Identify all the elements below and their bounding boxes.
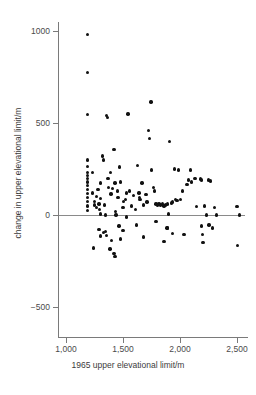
y-tick-label-wrap: 1000 bbox=[14, 27, 50, 36]
data-point bbox=[209, 179, 212, 182]
data-point bbox=[177, 168, 180, 171]
y-axis-title: change in upper elevational limit/m bbox=[13, 93, 23, 253]
x-axis-title: 1965 upper elevational limit/m bbox=[0, 360, 256, 370]
data-point bbox=[189, 168, 192, 171]
data-point bbox=[103, 203, 106, 206]
data-point bbox=[113, 255, 116, 258]
data-point bbox=[137, 191, 140, 194]
data-point bbox=[179, 198, 182, 201]
x-tick-label: 1,000 bbox=[46, 345, 86, 354]
data-point bbox=[118, 165, 121, 168]
data-point bbox=[105, 234, 108, 237]
data-point bbox=[98, 208, 101, 211]
data-point bbox=[86, 209, 89, 212]
data-point bbox=[128, 189, 131, 192]
data-point bbox=[102, 158, 105, 161]
y-axis-line bbox=[58, 22, 59, 338]
data-point bbox=[211, 226, 214, 229]
data-point bbox=[108, 247, 111, 250]
data-point bbox=[134, 208, 137, 211]
data-point bbox=[106, 116, 109, 119]
data-point bbox=[150, 168, 153, 171]
data-point bbox=[190, 180, 193, 183]
data-point bbox=[201, 233, 204, 236]
data-point bbox=[91, 191, 94, 194]
data-point bbox=[116, 189, 119, 192]
x-tick-mark bbox=[66, 338, 67, 343]
data-point bbox=[116, 196, 119, 199]
data-point bbox=[91, 171, 94, 174]
data-point bbox=[148, 137, 151, 140]
data-point bbox=[171, 200, 174, 203]
x-tick-mark bbox=[123, 338, 124, 343]
data-point bbox=[113, 181, 116, 184]
data-point bbox=[86, 196, 89, 199]
data-point bbox=[86, 165, 89, 168]
data-point bbox=[167, 212, 170, 215]
y-tick-mark bbox=[53, 215, 59, 216]
data-point bbox=[109, 192, 112, 195]
data-point bbox=[111, 187, 114, 190]
data-point bbox=[106, 177, 109, 180]
data-point bbox=[138, 198, 141, 201]
data-point bbox=[173, 167, 176, 170]
data-point bbox=[86, 184, 89, 187]
data-point bbox=[213, 206, 216, 209]
data-point bbox=[86, 158, 89, 161]
data-point bbox=[203, 204, 206, 207]
data-point bbox=[181, 189, 184, 192]
data-point bbox=[162, 240, 165, 243]
data-point bbox=[235, 205, 238, 208]
data-point bbox=[153, 189, 156, 192]
data-point bbox=[171, 232, 174, 235]
y-tick-mark bbox=[53, 123, 59, 124]
scatter-plot-figure: 10005000−500 1,0001,5002,0002,500 1965 u… bbox=[0, 0, 256, 395]
data-point bbox=[110, 239, 113, 242]
y-tick-label: −500 bbox=[14, 303, 50, 312]
data-point bbox=[200, 178, 203, 181]
data-point bbox=[86, 188, 89, 191]
data-point bbox=[238, 213, 241, 216]
data-point bbox=[124, 198, 127, 201]
data-point bbox=[104, 230, 107, 233]
y-tick-mark bbox=[53, 307, 59, 308]
data-point bbox=[86, 33, 89, 36]
data-point bbox=[109, 171, 112, 174]
data-point bbox=[86, 71, 89, 74]
data-point bbox=[205, 213, 208, 216]
data-point bbox=[168, 140, 171, 143]
data-point bbox=[86, 192, 89, 195]
data-point bbox=[97, 228, 100, 231]
data-point bbox=[99, 234, 102, 237]
x-tick-label: 2,000 bbox=[160, 345, 200, 354]
data-point bbox=[86, 204, 89, 207]
data-point bbox=[92, 246, 95, 249]
data-point bbox=[135, 223, 138, 226]
data-point bbox=[149, 100, 152, 103]
data-point bbox=[154, 220, 157, 223]
data-point bbox=[112, 148, 115, 151]
x-tick-label: 2,500 bbox=[217, 345, 256, 354]
x-axis-line bbox=[58, 337, 248, 338]
data-point bbox=[132, 194, 135, 197]
data-point bbox=[136, 164, 139, 167]
x-tick-mark bbox=[237, 338, 238, 343]
x-tick-mark bbox=[180, 338, 181, 343]
data-point bbox=[121, 206, 124, 209]
data-point bbox=[117, 224, 120, 227]
y-tick-label-wrap: −500 bbox=[14, 303, 50, 312]
data-point bbox=[119, 180, 122, 183]
data-point bbox=[215, 213, 218, 216]
data-point bbox=[182, 233, 185, 236]
data-point bbox=[201, 241, 204, 244]
data-point bbox=[119, 237, 122, 240]
data-point bbox=[114, 213, 117, 216]
y-tick-label: 1000 bbox=[14, 27, 50, 36]
data-point bbox=[200, 224, 203, 227]
data-point bbox=[86, 200, 89, 203]
data-point bbox=[185, 183, 188, 186]
data-point bbox=[166, 226, 169, 229]
data-point bbox=[144, 193, 147, 196]
data-point bbox=[166, 202, 169, 205]
data-point bbox=[140, 181, 143, 184]
